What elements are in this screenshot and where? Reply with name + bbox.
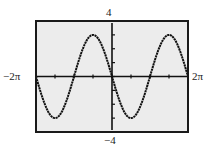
graph-plot (0, 0, 215, 151)
